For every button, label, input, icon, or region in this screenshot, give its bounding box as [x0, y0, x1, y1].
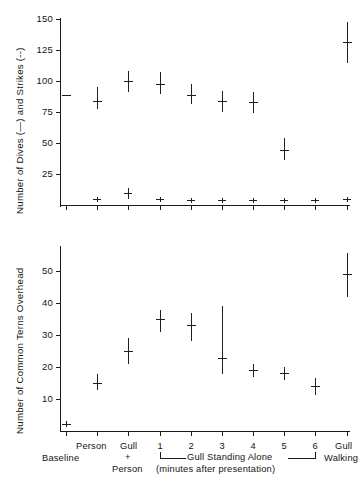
bracket-right-cap [315, 452, 316, 458]
bracket-right-bar [288, 458, 316, 459]
figure-root: Number of Dives (—) and Strikes (--) 150… [0, 0, 362, 483]
xlabel-group-line1: Gull Standing Alone [187, 452, 272, 462]
x-axis-label-block: Person Gull Baseline + Person 1 2 3 4 5 … [0, 0, 362, 483]
xlabel-gull-walking-line2: Walking [324, 453, 358, 463]
gull-standing-alone-bracket [0, 0, 362, 483]
xlabel-group-line2: (minutes after presentation) [156, 464, 275, 474]
xlabel-gull-walking-line1: Gull [335, 441, 352, 451]
bracket-left-bar [160, 458, 186, 459]
